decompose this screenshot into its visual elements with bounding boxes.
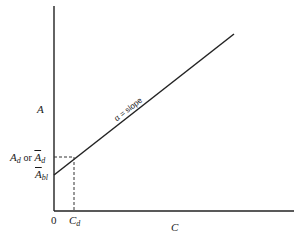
- x-axis-label: C: [171, 222, 178, 233]
- intercept-sub: bl: [42, 173, 48, 182]
- calibration-line: [54, 34, 234, 175]
- origin-label: 0: [51, 215, 57, 226]
- y-marker-alt-sub: d: [41, 156, 45, 165]
- intercept-label: Abl: [35, 169, 48, 182]
- y-marker-sub: d: [17, 156, 21, 165]
- y-marker-main: A: [10, 151, 17, 163]
- intercept-main: A: [35, 168, 42, 180]
- diagram-canvas: [0, 0, 298, 236]
- y-marker-or: or: [23, 152, 31, 163]
- x-marker-sub: d: [76, 219, 80, 228]
- y-axis-label: A: [37, 104, 44, 115]
- x-marker-label: Cd: [69, 215, 80, 228]
- y-marker-label: Ad or Ad: [10, 152, 45, 165]
